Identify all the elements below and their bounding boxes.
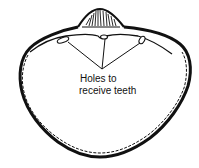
shell-diagram (0, 0, 199, 168)
label-holes-line1: Holes to (80, 73, 117, 84)
leader-lines (68, 39, 140, 69)
umbo (78, 9, 124, 27)
tooth-socket-center (101, 35, 108, 39)
label-holes-line2: receive teeth (79, 85, 136, 96)
